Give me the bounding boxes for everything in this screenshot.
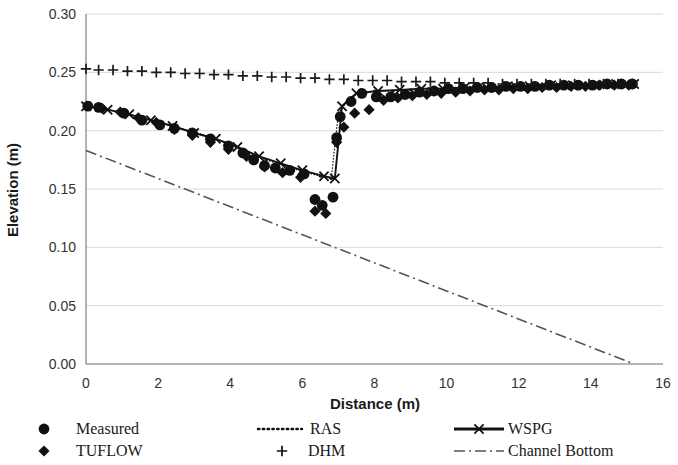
x-tick-label: 12 (511, 375, 527, 391)
x-tick-label: 10 (439, 375, 455, 391)
x-axis-title: Distance (m) (330, 395, 420, 412)
x-tick-label: 4 (226, 375, 234, 391)
data-point-dot (337, 112, 340, 115)
data-point-circle (39, 424, 50, 435)
x-tick-label: 16 (655, 375, 671, 391)
legend-label: Channel Bottom (508, 442, 614, 459)
data-point-circle (328, 192, 339, 203)
y-tick-label: 0.30 (49, 6, 76, 22)
y-tick-label: 0.10 (49, 239, 76, 255)
x-tick-label: 0 (82, 375, 90, 391)
y-tick-label: 0.00 (49, 356, 76, 372)
y-tick-label: 0.15 (49, 181, 76, 197)
y-tick-label: 0.20 (49, 123, 76, 139)
legend-label: TUFLOW (76, 442, 144, 459)
legend-label: WSPG (508, 420, 553, 437)
chart-figure: 0.000.050.100.150.200.250.30 02468101214… (0, 0, 678, 465)
x-tick-label: 14 (583, 375, 599, 391)
x-tick-label: 6 (298, 375, 306, 391)
y-axis-title: Elevation (m) (4, 143, 21, 237)
x-tick-label: 8 (371, 375, 379, 391)
x-tick-label: 2 (154, 375, 162, 391)
y-tick-label: 0.05 (49, 298, 76, 314)
legend-label: DHM (308, 442, 345, 459)
legend-label: RAS (310, 420, 341, 437)
y-tick-label: 0.25 (49, 64, 76, 80)
legend-label: Measured (76, 420, 139, 437)
